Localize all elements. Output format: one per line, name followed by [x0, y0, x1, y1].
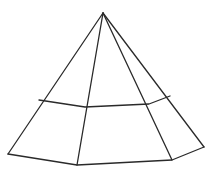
base-outline: [8, 147, 204, 165]
edge-right: [103, 13, 204, 147]
cross-section-ring: [39, 96, 170, 107]
edge-left: [8, 13, 103, 154]
pyramid-diagram: [0, 0, 209, 173]
pyramid-edges: [8, 13, 204, 165]
edge-front-right: [103, 13, 172, 160]
edge-front-left: [77, 13, 103, 165]
